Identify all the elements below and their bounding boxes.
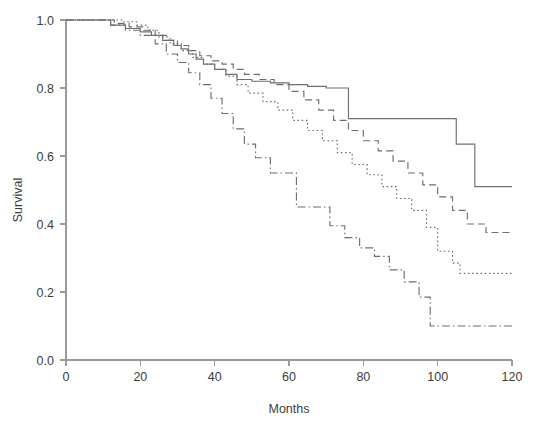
y-axis-tick-labels: 0.00.20.40.60.81.0 (37, 14, 54, 368)
x-tick-label: 60 (282, 370, 296, 384)
survival-curve-solid (66, 20, 512, 187)
x-axis-ticks (66, 360, 512, 366)
y-axis-ticks (60, 20, 66, 360)
survival-chart: 0.00.20.40.60.81.0 020406080100120 Month… (0, 0, 534, 431)
x-axis-title: Months (269, 402, 310, 416)
x-tick-label: 20 (133, 370, 147, 384)
survival-curve-dashed (66, 20, 512, 233)
y-tick-label: 0.4 (37, 218, 54, 232)
y-axis-title: Survival (11, 178, 25, 222)
survival-curve-dashdot (66, 20, 512, 326)
y-tick-label: 0.2 (37, 286, 54, 300)
y-tick-label: 0.8 (37, 82, 54, 96)
x-tick-label: 80 (356, 370, 370, 384)
x-tick-label: 0 (63, 370, 70, 384)
survival-curves-group (66, 20, 512, 326)
y-tick-label: 1.0 (37, 14, 54, 28)
x-tick-label: 100 (427, 370, 448, 384)
x-tick-label: 40 (208, 370, 222, 384)
x-tick-label: 120 (502, 370, 523, 384)
y-axis-group: 0.00.20.40.60.81.0 (37, 14, 66, 368)
x-axis-tick-labels: 020406080100120 (63, 370, 523, 384)
y-tick-label: 0.0 (37, 354, 54, 368)
y-tick-label: 0.6 (37, 150, 54, 164)
survival-curve-dotted (66, 20, 512, 273)
km-plot-canvas: 0.00.20.40.60.81.0 020406080100120 Month… (0, 0, 534, 431)
x-axis-group: 020406080100120 (63, 360, 523, 384)
